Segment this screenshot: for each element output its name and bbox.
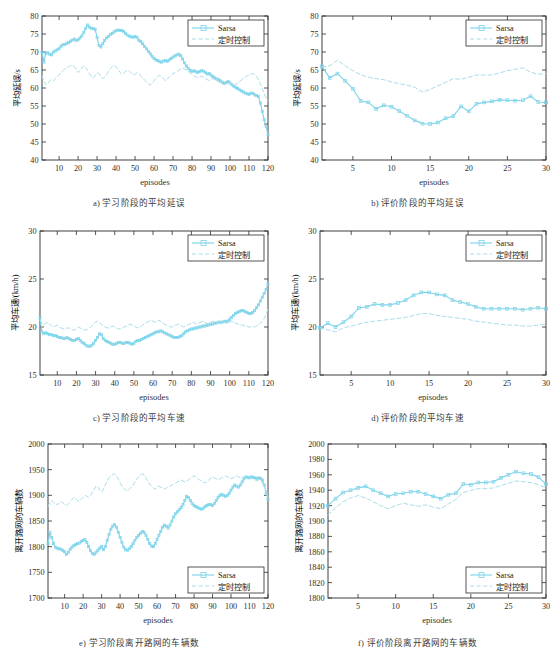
panel-b: 40455055606570758051015202530episodes平均延… <box>278 0 557 215</box>
y-axis-label: 离开路网的车辆数 <box>14 488 24 553</box>
panel-c-svg: 15202530102030405060708090100110120episo… <box>0 215 278 405</box>
x-axis-label: episodes <box>419 177 449 187</box>
y-tick-label: 60 <box>310 84 318 93</box>
x-tick-label: 100 <box>225 602 237 611</box>
panel-f-caption: f) 评价阶段离开路网的车辆数 <box>278 636 557 648</box>
legend: Sarsa定时控制 <box>466 235 542 261</box>
legend: Sarsa定时控制 <box>188 235 264 261</box>
panel-b-svg: 40455055606570758051015202530episodes平均延… <box>278 0 557 190</box>
y-tick-label: 1880 <box>308 532 324 541</box>
x-tick-label: 25 <box>503 379 511 388</box>
panel-e-caption: e) 学习阶段离开路网的车辆数 <box>0 636 278 648</box>
y-tick-label: 65 <box>30 66 38 75</box>
legend-label-timed: 定时控制 <box>496 582 528 592</box>
x-tick-label: 60 <box>149 379 157 388</box>
y-tick-label: 1800 <box>308 594 324 603</box>
x-tick-label: 20 <box>79 602 87 611</box>
x-tick-label: 80 <box>188 164 196 173</box>
series-timed-line <box>322 60 546 92</box>
x-tick-label: 60 <box>150 164 158 173</box>
panel-a-caption: a) 学习阶段的平均延误 <box>0 196 278 208</box>
panel-b-plot: 40455055606570758051015202530episodes平均延… <box>278 0 557 215</box>
x-tick-label: 30 <box>542 379 550 388</box>
y-tick-label: 20 <box>28 323 36 332</box>
x-tick-label: 10 <box>386 379 394 388</box>
y-tick-label: 50 <box>310 120 318 129</box>
x-tick-label: 70 <box>168 379 176 388</box>
x-tick-label: 110 <box>244 602 256 611</box>
y-tick-label: 40 <box>30 156 38 165</box>
panel-f-svg: 1800182018401860188019001920194019601980… <box>278 430 557 630</box>
y-tick-label: 15 <box>28 371 36 380</box>
panel-d-svg: 1520253051015202530episodes平均车速/(km/h)Sa… <box>278 215 557 405</box>
x-tick-label: 30 <box>93 164 101 173</box>
y-tick-label: 1900 <box>308 517 324 526</box>
y-tick-label: 80 <box>30 12 38 21</box>
x-tick-label: 25 <box>504 602 512 611</box>
panel-a-svg: 4045505560657075801020304050607080901001… <box>0 0 278 190</box>
legend-label-sarsa: Sarsa <box>496 571 514 580</box>
legend-label-timed: 定时控制 <box>218 35 250 45</box>
x-tick-label: 100 <box>224 379 236 388</box>
y-tick-label: 55 <box>310 102 318 111</box>
x-tick-label: 15 <box>425 379 433 388</box>
legend-label-sarsa: Sarsa <box>496 239 514 248</box>
series-sarsa-markers <box>327 470 548 507</box>
series-sarsa-line <box>320 292 546 328</box>
x-axis-label: episodes <box>140 177 170 187</box>
legend-label-sarsa: Sarsa <box>218 571 236 580</box>
x-tick-label: 90 <box>207 164 215 173</box>
x-tick-label: 70 <box>169 164 177 173</box>
y-axis-label: 平均延误/s <box>292 69 302 107</box>
y-tick-label: 1900 <box>28 491 44 500</box>
x-tick-label: 20 <box>465 164 473 173</box>
x-tick-label: 5 <box>349 379 353 388</box>
series-sarsa-line <box>328 472 546 506</box>
legend: Sarsa定时控制 <box>188 567 264 593</box>
y-tick-label: 55 <box>30 102 38 111</box>
y-tick-label: 1750 <box>28 568 44 577</box>
y-tick-label: 2000 <box>28 440 44 449</box>
x-tick-label: 110 <box>243 164 255 173</box>
x-tick-label: 120 <box>262 164 274 173</box>
x-tick-label: 15 <box>429 602 437 611</box>
x-tick-label: 60 <box>153 602 161 611</box>
y-tick-label: 75 <box>310 30 318 39</box>
legend: Sarsa定时控制 <box>466 20 542 46</box>
series-timed-line <box>40 309 268 330</box>
x-tick-label: 20 <box>467 602 475 611</box>
x-tick-label: 50 <box>131 164 139 173</box>
y-tick-label: 45 <box>310 138 318 147</box>
x-tick-label: 40 <box>111 379 119 388</box>
legend-label-sarsa: Sarsa <box>218 24 236 33</box>
legend: Sarsa定时控制 <box>188 20 264 46</box>
y-tick-label: 65 <box>310 66 318 75</box>
y-tick-label: 1860 <box>308 548 324 557</box>
x-tick-label: 30 <box>98 602 106 611</box>
series-sarsa-markers <box>321 65 548 125</box>
y-axis-label: 离开路网的车辆数 <box>294 488 304 553</box>
series-timed-line <box>48 474 268 507</box>
x-axis-label: episodes <box>139 392 169 402</box>
x-tick-label: 5 <box>356 602 360 611</box>
legend-label-sarsa: Sarsa <box>218 239 236 248</box>
y-axis-label: 平均车速/(km/h) <box>290 274 300 331</box>
panel-f: 1800182018401860188019001920194019601980… <box>278 430 557 661</box>
panel-c-plot: 15202530102030405060708090100110120episo… <box>0 215 278 430</box>
panel-e-plot: 1700175018001850190019502000102030405060… <box>0 430 278 661</box>
y-tick-label: 30 <box>28 227 36 236</box>
panel-a: 4045505560657075801020304050607080901001… <box>0 0 278 215</box>
x-tick-label: 110 <box>243 379 255 388</box>
x-tick-label: 50 <box>134 602 142 611</box>
y-tick-label: 1940 <box>308 486 324 495</box>
panel-grid: 4045505560657075801020304050607080901001… <box>0 0 557 661</box>
series-sarsa-markers <box>319 291 548 329</box>
x-tick-label: 40 <box>116 602 124 611</box>
y-tick-label: 60 <box>30 84 38 93</box>
y-tick-label: 20 <box>308 323 316 332</box>
panel-e-svg: 1700175018001850190019502000102030405060… <box>0 430 278 630</box>
x-tick-label: 40 <box>112 164 120 173</box>
series-sarsa-line <box>40 284 268 346</box>
legend-label-timed: 定时控制 <box>496 35 528 45</box>
x-tick-label: 20 <box>464 379 472 388</box>
